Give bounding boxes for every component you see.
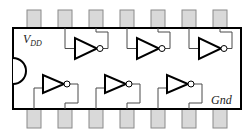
top-pin-8 bbox=[213, 10, 227, 28]
bottom-pin-1 bbox=[27, 109, 41, 128]
inversion-bubble-icon bbox=[64, 81, 70, 87]
top-pin-11 bbox=[120, 10, 134, 28]
bottom-pin-4 bbox=[120, 109, 134, 128]
top-pin-13 bbox=[58, 10, 72, 28]
inversion-bubble-icon bbox=[126, 81, 132, 87]
inversion-bubble-icon bbox=[221, 46, 227, 52]
top-pin-12 bbox=[89, 10, 103, 28]
top-pin-10 bbox=[151, 10, 165, 28]
gnd-label: Gnd bbox=[211, 93, 233, 107]
inversion-bubble-icon bbox=[159, 46, 165, 52]
bottom-pin-3 bbox=[89, 109, 103, 128]
inversion-bubble-icon bbox=[97, 46, 103, 52]
top-pin-row bbox=[27, 10, 227, 28]
hex-inverter-chip-diagram: VDD Gnd bbox=[0, 0, 252, 140]
bottom-pin-row bbox=[27, 109, 227, 128]
bottom-pin-2 bbox=[58, 109, 72, 128]
bottom-pin-7 bbox=[213, 109, 227, 128]
bottom-pin-5 bbox=[151, 109, 165, 128]
top-pin-14 bbox=[27, 10, 41, 28]
top-pin-9 bbox=[182, 10, 196, 28]
inversion-bubble-icon bbox=[188, 81, 194, 87]
bottom-pin-6 bbox=[182, 109, 196, 128]
